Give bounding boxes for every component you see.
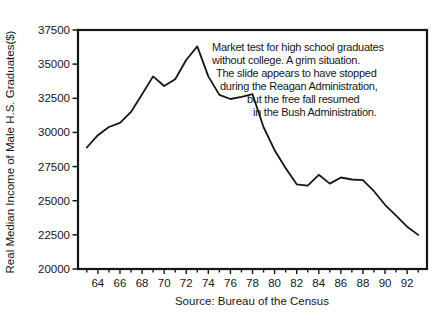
annotation-block: Market test for high school graduateswit… xyxy=(211,41,384,118)
annotation-line: The slide appears to have stopped xyxy=(216,67,377,79)
x-tick-label: 80 xyxy=(268,277,281,289)
x-tick-label: 76 xyxy=(224,277,237,289)
x-tick-label: 88 xyxy=(357,277,370,289)
y-tick-label: 20000 xyxy=(38,263,70,275)
x-tick-label: 82 xyxy=(290,277,303,289)
x-tick-label: 66 xyxy=(114,277,127,289)
annotation-line: in the Bush Administration. xyxy=(253,106,377,118)
y-tick-label: 32500 xyxy=(38,92,70,104)
x-tick-label: 64 xyxy=(91,277,104,289)
annotation-line: without college. A grim situation. xyxy=(211,54,360,66)
y-tick-label: 35000 xyxy=(38,58,70,70)
x-tick-label: 68 xyxy=(136,277,149,289)
x-axis-ticks: 646668707274767880828486889092 xyxy=(87,269,418,289)
x-tick-label: 74 xyxy=(202,277,215,289)
chart-canvas: Real Median Income of Male H.S. Graduate… xyxy=(0,0,445,325)
y-tick-label: 37500 xyxy=(38,24,70,36)
y-tick-label: 22500 xyxy=(38,229,70,241)
x-tick-label: 72 xyxy=(180,277,193,289)
annotation-line: Market test for high school graduates xyxy=(212,41,384,53)
y-tick-label: 30000 xyxy=(38,126,70,138)
x-tick-label: 70 xyxy=(158,277,171,289)
annotation-line: but the free fall resumed xyxy=(247,93,360,105)
x-tick-label: 78 xyxy=(246,277,259,289)
annotation-line: during the Reagan Administration, xyxy=(220,80,378,92)
source-caption: Source: Bureau of the Census xyxy=(175,295,329,307)
x-tick-label: 84 xyxy=(312,277,325,289)
x-tick-label: 92 xyxy=(401,277,414,289)
x-tick-label: 86 xyxy=(334,277,347,289)
x-tick-label: 90 xyxy=(379,277,392,289)
y-axis-label: Real Median Income of Male H.S. Graduate… xyxy=(4,30,16,273)
y-tick-label: 25000 xyxy=(38,195,70,207)
y-axis-ticks: 2000022500250002750030000325003500037500 xyxy=(38,24,78,275)
chart-figure: Real Median Income of Male H.S. Graduate… xyxy=(0,0,445,325)
y-tick-label: 27500 xyxy=(38,161,70,173)
